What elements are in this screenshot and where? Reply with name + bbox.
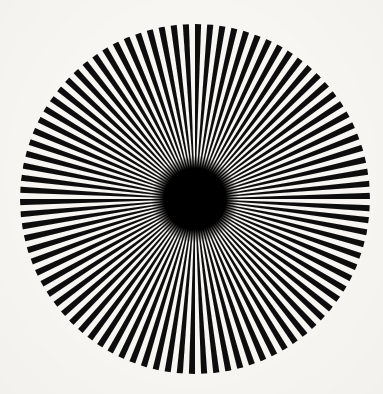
image-canvas: [0, 0, 383, 394]
center-core-blob: [151, 155, 239, 243]
radial-starburst-figure: [0, 0, 383, 394]
